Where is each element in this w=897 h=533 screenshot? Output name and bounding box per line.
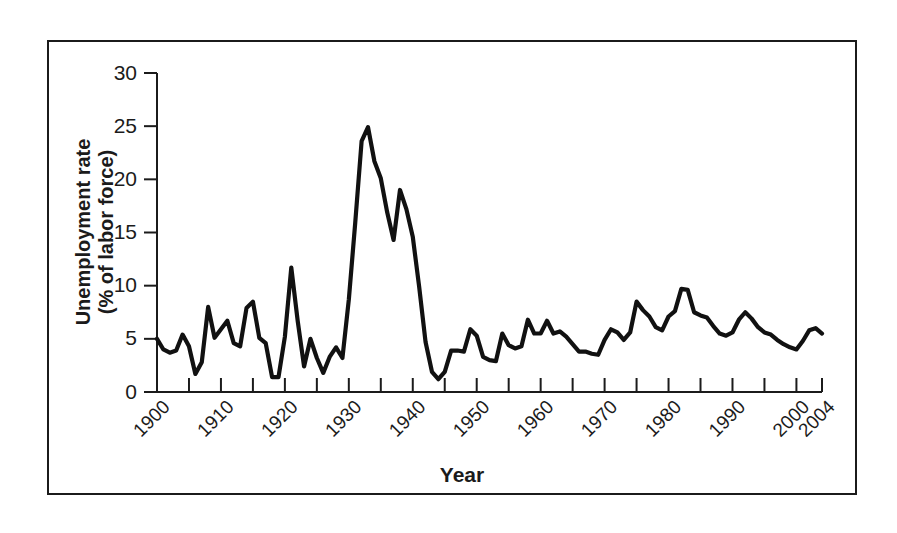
- x-tick-label: 1970: [577, 396, 622, 441]
- x-tick-label: 1980: [641, 396, 686, 441]
- axis-lines: [157, 73, 822, 392]
- y-tick-label: 0: [125, 380, 137, 403]
- x-tick-label: 1940: [385, 396, 430, 441]
- y-tick-label: 10: [114, 273, 137, 296]
- x-axis-tick-labels: 1900191019201930194019501960197019801990…: [129, 396, 839, 441]
- x-axis-ticks: [157, 378, 822, 392]
- x-tick-label: 1930: [321, 396, 366, 441]
- y-axis-title-line2: (% of labor force): [95, 150, 117, 314]
- x-tick-label: 1900: [129, 396, 174, 441]
- x-tick-label: 1960: [513, 396, 558, 441]
- y-tick-label: 20: [114, 167, 137, 190]
- figure-container: 051015202530 190019101920193019401950196…: [0, 0, 897, 533]
- y-axis-title-line1: Unemployment rate: [72, 139, 94, 326]
- unemployment-rate-line: [157, 127, 822, 379]
- y-axis-title: Unemployment rate (% of labor force): [72, 139, 117, 326]
- x-axis-title: Year: [440, 463, 484, 486]
- y-tick-label: 5: [125, 326, 137, 349]
- y-tick-label: 30: [114, 61, 137, 84]
- x-tick-label: 1920: [257, 396, 302, 441]
- x-tick-label: 1990: [705, 396, 750, 441]
- x-tick-label: 1910: [193, 396, 238, 441]
- y-axis-tick-labels: 051015202530: [114, 61, 137, 403]
- y-axis-ticks: [144, 73, 157, 392]
- chart-canvas: 051015202530 190019101920193019401950196…: [0, 0, 897, 533]
- x-tick-label: 1950: [449, 396, 494, 441]
- y-tick-label: 15: [114, 220, 137, 243]
- y-tick-label: 25: [114, 114, 137, 137]
